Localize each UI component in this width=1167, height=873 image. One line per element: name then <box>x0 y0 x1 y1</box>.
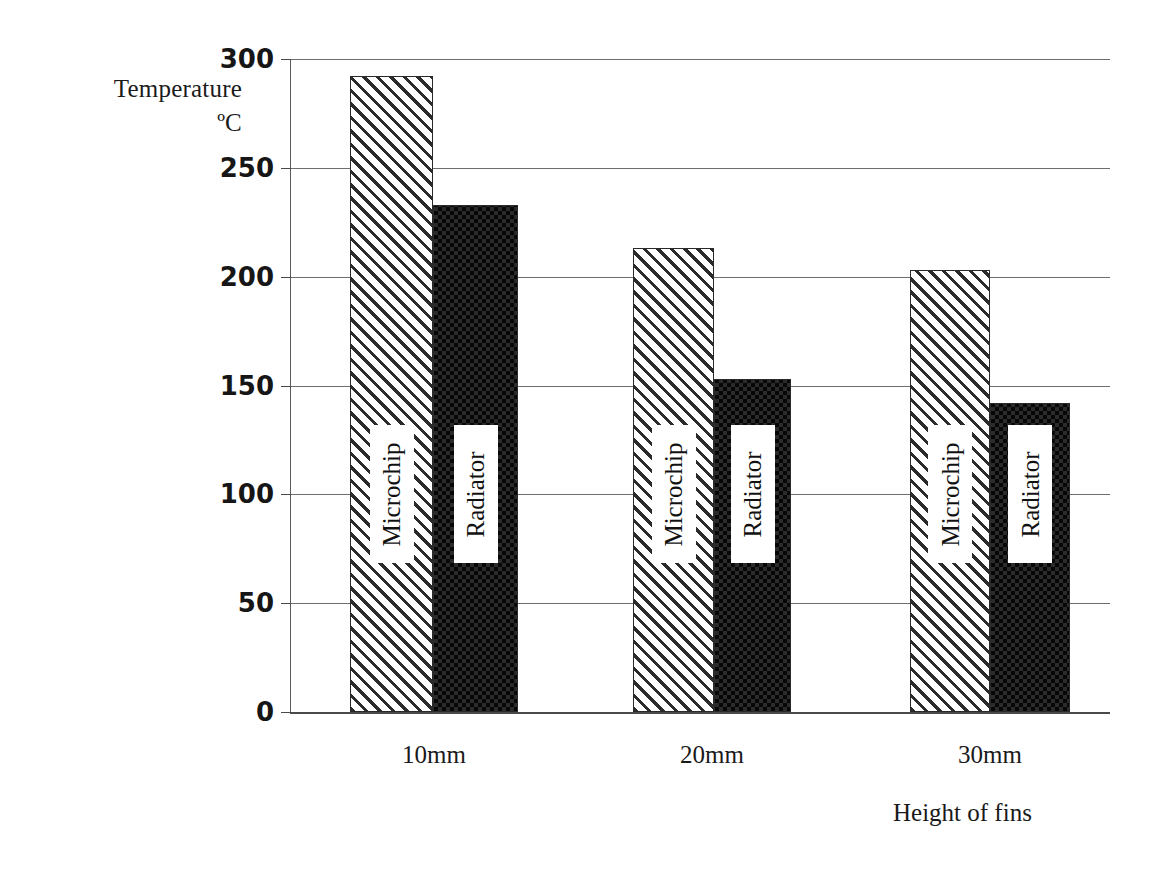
bar-series-label-microchip-30mm: Microchip <box>928 425 972 563</box>
bar-microchip-10mm[interactable] <box>350 76 433 712</box>
y-axis-title-line1: Temperature <box>30 72 242 106</box>
gridline-300 <box>290 59 1110 60</box>
y-axis-title-unit: ºC <box>30 106 242 140</box>
y-tick-300 <box>281 59 291 60</box>
bar-series-label-text: Microchip <box>661 442 686 546</box>
y-tick-label-100: 100 <box>204 481 274 507</box>
bar-series-label-text: Radiator <box>740 451 765 537</box>
bar-series-label-microchip-10mm: Microchip <box>370 425 414 563</box>
bar-series-label-text: Radiator <box>1018 451 1043 537</box>
bar-series-label-microchip-20mm: Microchip <box>652 425 696 563</box>
x-axis-title: Height of fins <box>893 800 1032 825</box>
y-tick-label-150: 150 <box>204 373 274 399</box>
y-tick-50 <box>281 603 291 604</box>
y-tick-label-50: 50 <box>204 590 274 616</box>
bar-series-label-radiator-20mm: Radiator <box>731 425 775 563</box>
bar-series-label-text: Microchip <box>938 442 963 546</box>
x-category-label-10mm: 10mm <box>350 742 518 767</box>
y-tick-0 <box>281 712 291 713</box>
y-tick-label-250: 250 <box>204 155 274 181</box>
bar-series-label-text: Radiator <box>463 451 488 537</box>
gridline-0 <box>290 712 1110 714</box>
y-tick-150 <box>281 386 291 387</box>
y-tick-label-200: 200 <box>204 264 274 290</box>
x-category-label-20mm: 20mm <box>633 742 791 767</box>
x-category-label-30mm: 30mm <box>910 742 1070 767</box>
y-axis-title: Temperature ºC <box>30 72 242 140</box>
y-tick-250 <box>281 168 291 169</box>
y-tick-100 <box>281 494 291 495</box>
y-tick-label-0: 0 <box>204 699 274 725</box>
plot-area: MicrochipRadiatorMicrochipRadiatorMicroc… <box>290 59 1110 712</box>
bar-series-label-text: Microchip <box>379 442 404 546</box>
y-tick-label-300: 300 <box>204 46 274 72</box>
bar-series-label-radiator-10mm: Radiator <box>454 425 498 563</box>
y-tick-200 <box>281 277 291 278</box>
bar-series-label-radiator-30mm: Radiator <box>1008 425 1052 563</box>
